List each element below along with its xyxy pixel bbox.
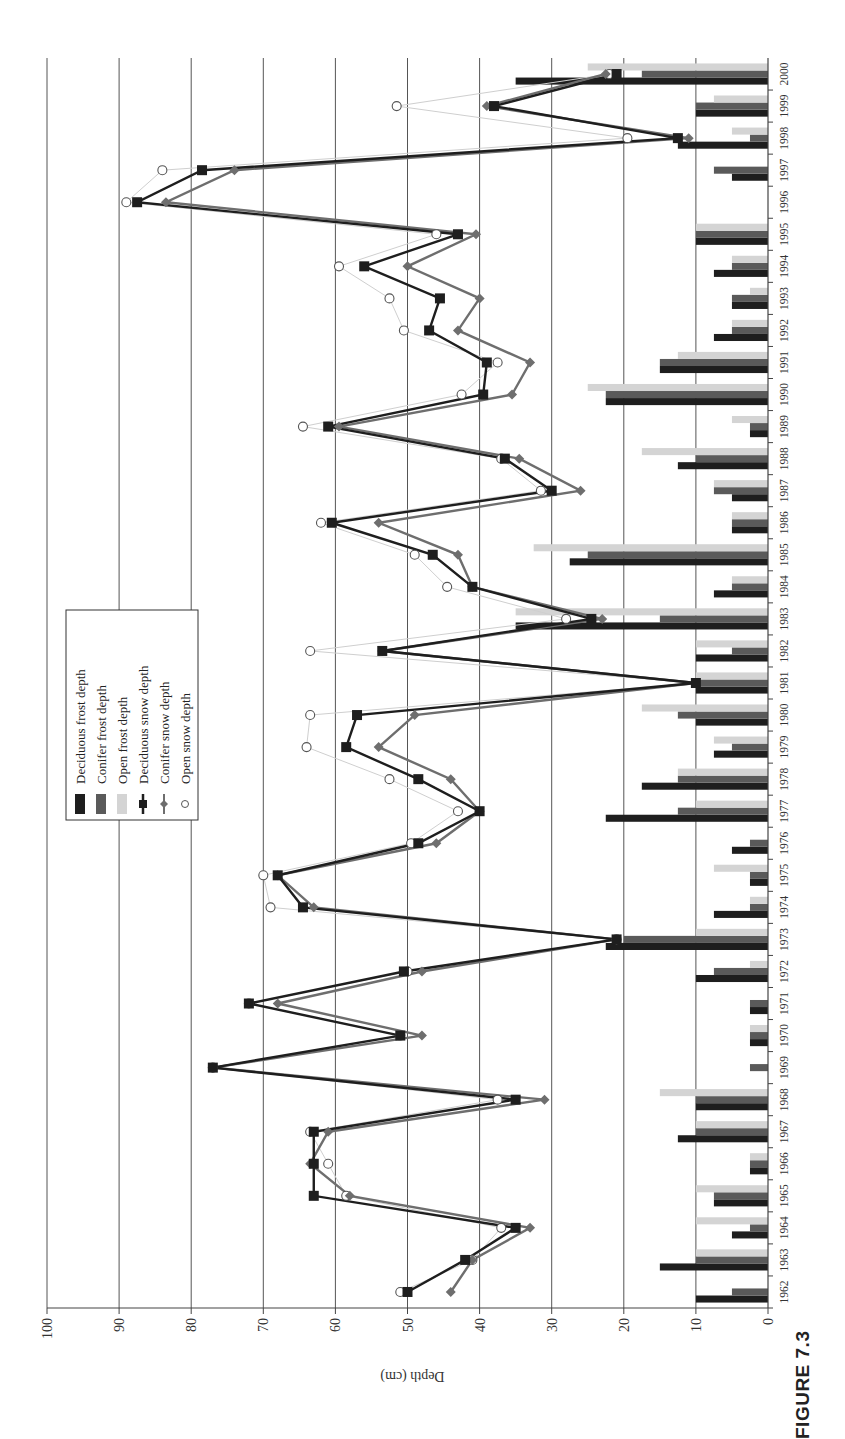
- frost-bar: [750, 1153, 768, 1160]
- depth-tick-label: 80: [184, 1318, 199, 1332]
- frost-bar: [750, 430, 768, 437]
- square-marker: [208, 1063, 218, 1073]
- diamond-marker: [514, 454, 524, 464]
- frost-bar: [660, 1089, 768, 1096]
- frost-bar: [606, 943, 768, 950]
- year-label: 1967: [778, 1120, 790, 1143]
- square-marker: [511, 1095, 521, 1105]
- circle-marker: [306, 711, 315, 720]
- year-label: 1989: [778, 415, 790, 438]
- square-marker: [435, 293, 445, 303]
- legend-label: Open frost depth: [115, 696, 130, 784]
- diamond-marker: [597, 614, 607, 624]
- legend-label: Conifer frost depth: [94, 685, 109, 784]
- frost-bar: [642, 783, 768, 790]
- frost-bar: [750, 1160, 768, 1167]
- frost-bar: [714, 270, 768, 277]
- circle-marker: [392, 102, 401, 111]
- frost-bar: [732, 256, 768, 263]
- frost-bar: [678, 808, 768, 815]
- frost-bar: [696, 1128, 768, 1135]
- depth-tick-label: 60: [328, 1318, 343, 1332]
- legend-swatch-bar: [75, 794, 85, 814]
- square-marker: [359, 261, 369, 271]
- frost-bar: [696, 1103, 768, 1110]
- frost-bar: [714, 1199, 768, 1206]
- depth-axis-label: Depth (cm): [380, 1368, 444, 1384]
- frost-bar: [714, 590, 768, 597]
- year-label: 1995: [778, 223, 790, 246]
- frost-bar: [714, 865, 768, 872]
- square-marker: [298, 902, 308, 912]
- frost-bar: [696, 687, 768, 694]
- year-label: 1990: [778, 383, 790, 406]
- circle-marker: [324, 1159, 333, 1168]
- legend-label: Deciduous snow depth: [136, 665, 151, 784]
- frost-bar: [714, 480, 768, 487]
- circle-marker: [493, 1095, 502, 1104]
- year-label: 1991: [778, 351, 790, 374]
- square-marker: [612, 69, 622, 79]
- frost-bar: [750, 840, 768, 847]
- frost-bar: [588, 384, 768, 391]
- frost-bar: [696, 1096, 768, 1103]
- frost-bar: [714, 334, 768, 341]
- circle-marker: [493, 358, 502, 367]
- legend-label: Open snow depth: [178, 693, 193, 784]
- year-label: 1975: [778, 864, 790, 887]
- frost-bar: [732, 583, 768, 590]
- frost-bar: [732, 494, 768, 501]
- frost-bar: [750, 423, 768, 430]
- frost-bar: [678, 776, 768, 783]
- year-label: 1968: [778, 1088, 790, 1111]
- frost-bar: [660, 615, 768, 622]
- diamond-marker: [525, 1223, 535, 1233]
- snow-line: [126, 74, 696, 1292]
- year-label: 1979: [778, 735, 790, 758]
- square-marker: [273, 870, 283, 880]
- frost-bar: [750, 135, 768, 142]
- frost-bar: [714, 737, 768, 744]
- square-marker: [197, 165, 207, 175]
- year-label: 1986: [778, 511, 790, 534]
- frost-bar: [696, 1256, 768, 1263]
- year-label: 1965: [778, 1184, 790, 1207]
- circle-marker: [302, 743, 311, 752]
- circle-marker: [298, 422, 307, 431]
- frost-bar: [678, 1135, 768, 1142]
- diamond-marker: [539, 1095, 549, 1105]
- circle-marker: [316, 518, 325, 527]
- year-label: 1964: [778, 1216, 790, 1239]
- frost-bar: [714, 167, 768, 174]
- year-label: 1982: [778, 639, 790, 662]
- frost-bar: [642, 71, 768, 78]
- frost-bar: [750, 288, 768, 295]
- frost-bar: [750, 1064, 768, 1071]
- year-label: 1971: [778, 992, 790, 1015]
- frost-bar: [732, 174, 768, 181]
- frost-bar: [696, 719, 768, 726]
- frost-bar: [750, 879, 768, 886]
- square-marker: [309, 1127, 319, 1137]
- square-marker: [132, 197, 142, 207]
- frost-bar: [516, 78, 768, 85]
- frost-bar: [678, 142, 768, 149]
- frost-bar: [696, 231, 768, 238]
- legend-swatch-bar: [117, 794, 127, 814]
- circle-marker: [410, 550, 419, 559]
- year-label: 1970: [778, 1024, 790, 1047]
- year-label: 1983: [778, 607, 790, 630]
- year-label: 1998: [778, 126, 790, 149]
- frost-bar: [750, 1224, 768, 1231]
- frost-bar: [750, 1000, 768, 1007]
- year-label: 1969: [778, 1056, 790, 1079]
- frost-bar: [732, 519, 768, 526]
- snow-line: [137, 74, 696, 1292]
- year-label: 1973: [778, 928, 790, 951]
- frost-bar: [570, 558, 768, 565]
- circle-marker: [623, 134, 632, 143]
- circle-marker: [266, 903, 275, 912]
- depth-tick-label: 10: [689, 1318, 704, 1332]
- frost-bar: [714, 96, 768, 103]
- frost-bar: [696, 975, 768, 982]
